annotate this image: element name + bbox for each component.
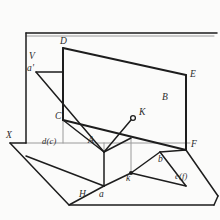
ground-plane-right-edge xyxy=(214,196,218,205)
label-point-a-lower: a xyxy=(99,190,104,200)
edge-a-to-bx xyxy=(104,138,131,152)
label-point-b-lower: b xyxy=(158,155,163,165)
label-point-k-upper: K xyxy=(139,108,146,118)
edge-k-to-b-lower xyxy=(131,152,160,173)
label-plane-v: V xyxy=(29,52,35,62)
trace-tail-to-corner xyxy=(186,150,218,196)
edge-d-to-e xyxy=(63,48,186,75)
edge-b-lower-to-f xyxy=(160,150,186,152)
label-point-c: C xyxy=(55,112,62,122)
label-point-b: B xyxy=(162,93,168,103)
figure-canvas xyxy=(0,0,220,220)
label-point-a-upper: A xyxy=(88,136,94,146)
label-point-h: H xyxy=(79,190,86,200)
label-point-f: F xyxy=(191,140,197,150)
point-k-upper-marker xyxy=(131,116,136,121)
geometry-figure: V a' D E B C K A F X H d(c) e(f) b k a xyxy=(0,0,220,220)
label-a-prime: a' xyxy=(27,64,34,74)
edge-left-to-a-lower xyxy=(26,156,104,186)
label-trace-dc: d(c) xyxy=(42,137,56,146)
label-point-k-lower: k xyxy=(126,174,130,184)
label-point-x: X xyxy=(6,131,12,141)
label-point-e: E xyxy=(190,70,196,80)
label-point-d: D xyxy=(60,37,67,47)
label-trace-ef: e(f) xyxy=(175,172,188,181)
lower-projection-body xyxy=(26,138,218,205)
